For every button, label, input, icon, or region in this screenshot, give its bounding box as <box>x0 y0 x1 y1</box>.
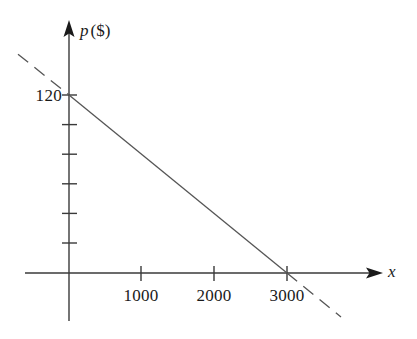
x-tick-label-2000: 2000 <box>184 286 244 306</box>
y-axis-label-symbol: p <box>80 21 91 40</box>
y-axis-label: p($) <box>80 21 110 41</box>
y-axis-label-unit: ($) <box>91 21 111 40</box>
x-tick-label-3000: 3000 <box>257 286 317 306</box>
demand-curve-figure: p($) x 120 1000 2000 3000 <box>0 0 417 339</box>
demand-line-solid <box>69 95 287 273</box>
x-tick-label-1000: 1000 <box>111 286 171 306</box>
y-tick-label-120: 120 <box>16 86 62 106</box>
x-axis-label: x <box>388 262 396 282</box>
